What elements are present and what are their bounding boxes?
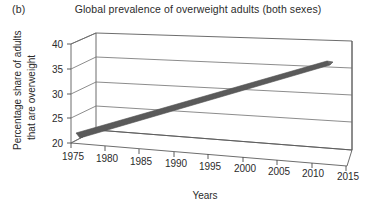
ytick-label-35: 35 <box>52 64 64 75</box>
leftwall-connector-25 <box>71 106 96 118</box>
leftwall-connector-40 <box>71 33 96 44</box>
ytick-label-30: 30 <box>52 89 64 100</box>
leftwall-connector-30 <box>71 82 96 94</box>
y-axis-tick-labels: 40 35 30 25 20 <box>52 39 64 149</box>
xtick-label-2005: 2005 <box>268 166 291 177</box>
y-axis-title-line2: that are overweight <box>26 55 37 140</box>
xtick-label-1990: 1990 <box>165 158 188 169</box>
xtick-label-2000: 2000 <box>234 163 257 174</box>
xtick-label-1985: 1985 <box>130 156 153 167</box>
xtick-label-1975: 1975 <box>62 151 85 162</box>
data-series-overweight-prevalence <box>76 61 333 138</box>
leftwall-connector-35 <box>71 57 96 69</box>
chart-plot-area: 40 35 30 25 20 Percentage share of adult… <box>0 0 368 215</box>
ytick-label-25: 25 <box>52 113 64 124</box>
x-axis-tick-labels: 1975 1980 1985 1990 1995 2000 2005 2010 … <box>62 151 360 182</box>
figure-container: (b) Global prevalence of overweight adul… <box>0 0 368 215</box>
xtick-label-1980: 1980 <box>96 153 119 164</box>
x-axis-title: Years <box>192 190 217 201</box>
ytick-label-40: 40 <box>52 39 64 50</box>
y-axis-ticks <box>67 44 71 143</box>
xtick-label-2015: 2015 <box>337 171 360 182</box>
ytick-label-20: 20 <box>52 138 64 149</box>
y-axis-title-line1: Percentage share of adults <box>12 30 23 150</box>
y-axis-title: Percentage share of adults that are over… <box>12 30 37 150</box>
xtick-label-2010: 2010 <box>302 168 325 179</box>
xtick-label-1995: 1995 <box>199 161 222 172</box>
series-ribbon-body <box>76 61 330 138</box>
